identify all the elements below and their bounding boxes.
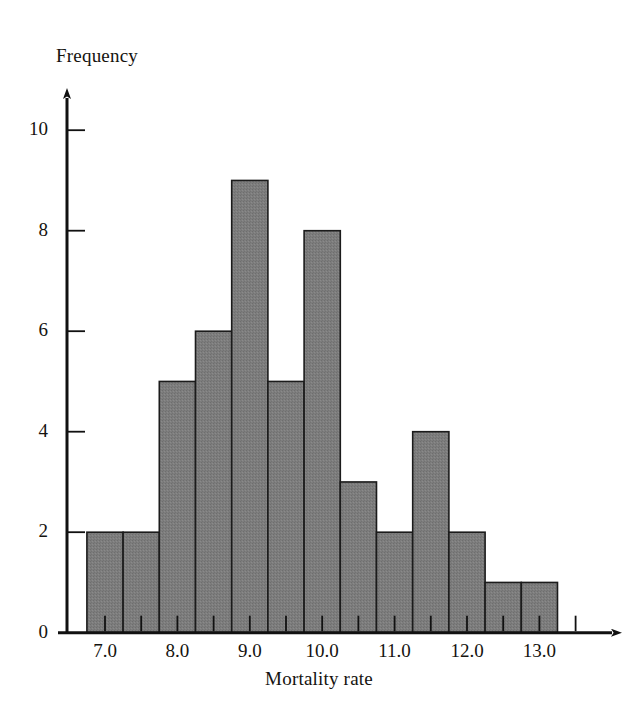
y-tick-label: 0: [14, 621, 48, 643]
x-tick-label: 10.0: [292, 640, 352, 662]
plot-area: [0, 0, 638, 716]
histogram-bar: [340, 482, 376, 633]
histogram-bar: [232, 180, 268, 632]
x-tick-label: 9.0: [220, 640, 280, 662]
x-tick-label: 8.0: [147, 640, 207, 662]
bars-group: [87, 180, 558, 632]
histogram-bar: [196, 331, 232, 633]
histogram-figure: Frequency Mortality rate 0246810 7.08.09…: [0, 0, 638, 716]
histogram-bar: [304, 231, 340, 633]
y-tick-label: 8: [14, 219, 48, 241]
histogram-bar: [159, 381, 195, 632]
x-tick-label: 7.0: [75, 640, 135, 662]
histogram-bar: [413, 432, 449, 633]
y-tick-label: 2: [14, 520, 48, 542]
x-tick-label: 13.0: [509, 640, 569, 662]
histogram-bar: [268, 381, 304, 632]
y-axis-ticks: [67, 130, 85, 532]
x-tick-label: 11.0: [365, 640, 425, 662]
x-tick-label: 12.0: [437, 640, 497, 662]
y-tick-label: 4: [14, 420, 48, 442]
y-tick-label: 10: [14, 118, 48, 140]
y-tick-label: 6: [14, 319, 48, 341]
